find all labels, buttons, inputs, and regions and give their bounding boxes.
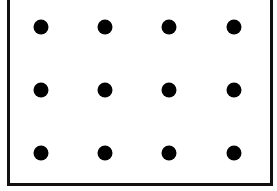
dot-r3-c4	[227, 146, 242, 161]
dot-r2-c1	[34, 83, 49, 98]
dot-r1-c1	[34, 20, 49, 35]
dot-r2-c2	[98, 83, 113, 98]
dot-r3-c2	[98, 146, 113, 161]
dot-r1-c3	[162, 20, 177, 35]
dot-r2-c3	[162, 83, 177, 98]
dot-r3-c3	[162, 146, 177, 161]
dot-r2-c4	[227, 83, 242, 98]
dot-r3-c1	[34, 146, 49, 161]
dot-r1-c2	[98, 20, 113, 35]
dot-r1-c4	[227, 20, 242, 35]
